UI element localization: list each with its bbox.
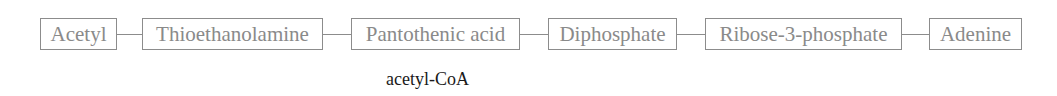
node-ribose-3-phosphate: Ribose-3-phosphate — [705, 18, 902, 50]
node-adenine: Adenine — [929, 18, 1022, 50]
connector-thioethanolamine-pantothenic-acid — [323, 34, 351, 35]
acetyl-coa-structure-diagram: Acetyl Thioethanolamine Pantothenic acid… — [0, 0, 1057, 96]
node-acetyl: Acetyl — [40, 18, 117, 50]
diagram-caption: acetyl-CoA — [386, 68, 469, 90]
node-pantothenic-acid: Pantothenic acid — [351, 18, 520, 50]
node-diphosphate: Diphosphate — [548, 18, 677, 50]
connector-acetyl-thioethanolamine — [117, 34, 142, 35]
connector-ribose-3-phosphate-adenine — [902, 34, 929, 35]
node-thioethanolamine: Thioethanolamine — [142, 18, 323, 50]
connector-diphosphate-ribose-3-phosphate — [677, 34, 705, 35]
connector-pantothenic-acid-diphosphate — [520, 34, 548, 35]
